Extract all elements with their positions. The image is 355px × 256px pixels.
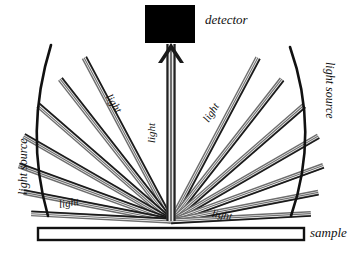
detector-box — [145, 5, 195, 43]
light-source-arc-right — [290, 47, 305, 216]
optics-diagram: detector sample light source light sourc… — [0, 0, 355, 256]
central-light-beam — [158, 43, 184, 221]
light-source-arc-left — [37, 45, 51, 216]
sample-bar — [38, 228, 304, 240]
diagram-canvas — [0, 0, 355, 256]
